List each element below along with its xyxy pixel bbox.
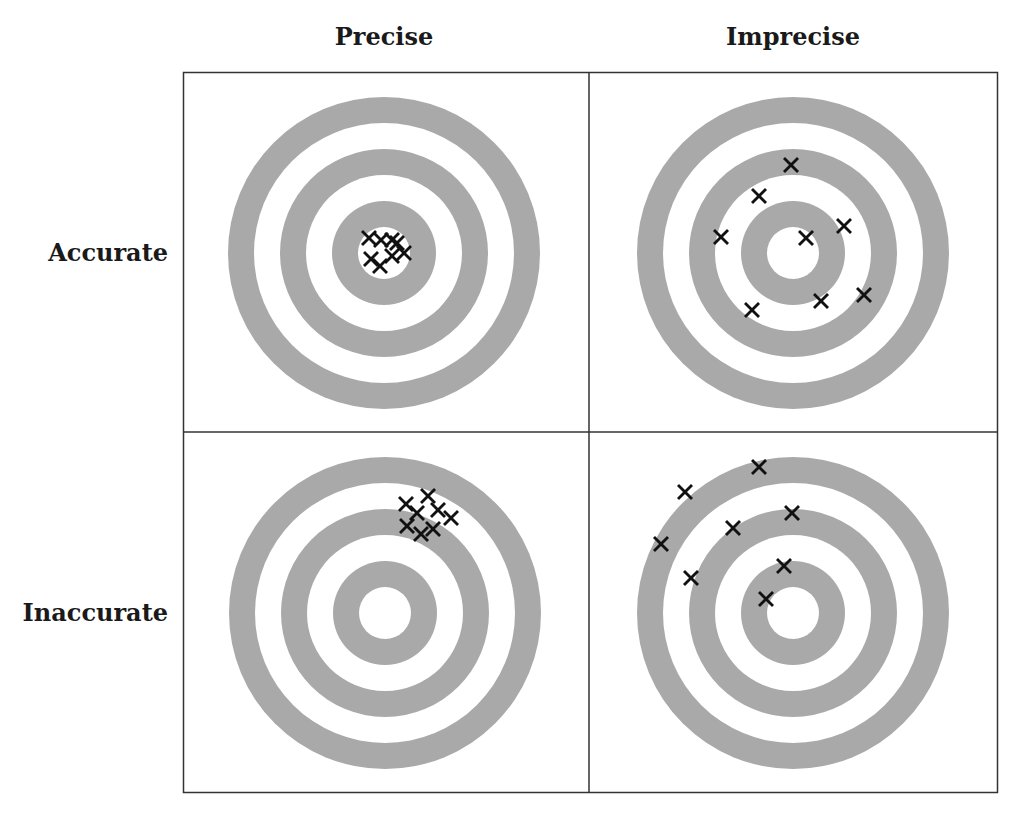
target-icon (229, 457, 541, 769)
target-diagram-grid (0, 0, 1025, 820)
target-icon (637, 457, 949, 769)
target-icon (228, 97, 540, 409)
panel-accurate-imprecise (637, 97, 949, 409)
panel-inaccurate-imprecise (637, 457, 949, 769)
target-icon (637, 97, 949, 409)
panel-accurate-precise (228, 97, 540, 409)
panel-inaccurate-precise (229, 457, 541, 769)
mark-icon (678, 485, 692, 499)
